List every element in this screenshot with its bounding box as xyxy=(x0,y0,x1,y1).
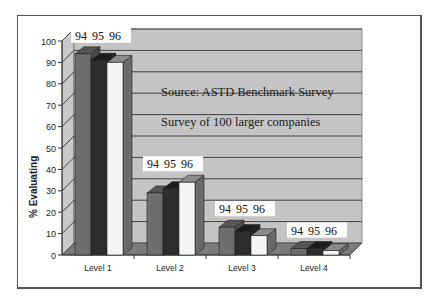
annotation-text: Survey of 100 larger companies xyxy=(161,115,321,129)
year-label: 94 xyxy=(75,29,87,43)
year-label: 95 xyxy=(236,202,248,216)
year-label: 96 xyxy=(253,202,265,216)
bar xyxy=(75,54,91,255)
bar xyxy=(291,249,307,255)
category-label: Level 4 xyxy=(300,263,328,273)
year-label: 95 xyxy=(164,157,176,171)
y-tick-label: 80 xyxy=(46,79,56,89)
bar xyxy=(219,227,235,255)
bar-chart: 0102030405060708090100949596Level 194959… xyxy=(0,0,435,304)
year-label: 95 xyxy=(92,29,104,43)
y-tick-label: 100 xyxy=(41,37,56,47)
category-label: Level 1 xyxy=(84,263,112,273)
y-tick-label: 50 xyxy=(46,144,56,154)
y-tick-label: 20 xyxy=(46,208,56,218)
category-label: Level 3 xyxy=(228,263,256,273)
bar xyxy=(179,182,195,255)
y-tick-label: 90 xyxy=(46,58,56,68)
year-label: 96 xyxy=(325,224,337,238)
category-label: Level 2 xyxy=(156,263,184,273)
bar xyxy=(163,189,179,255)
y-tick-label: 70 xyxy=(46,101,56,111)
y-tick-label: 40 xyxy=(46,165,56,175)
y-tick-label: 60 xyxy=(46,122,56,132)
year-label: 96 xyxy=(109,29,121,43)
bar xyxy=(251,236,267,255)
bar xyxy=(147,193,163,255)
year-label: 94 xyxy=(147,157,159,171)
year-label: 95 xyxy=(308,224,320,238)
bar xyxy=(323,251,339,255)
y-tick-label: 30 xyxy=(46,186,56,196)
bar xyxy=(91,60,107,255)
year-label: 96 xyxy=(181,157,193,171)
annotation-text: Source: ASTD Benchmark Survey xyxy=(161,85,334,99)
year-label: 94 xyxy=(219,202,231,216)
bar xyxy=(235,231,251,255)
bar xyxy=(107,62,123,255)
y-axis-label: % Evaluating xyxy=(28,156,39,218)
bar xyxy=(307,249,323,255)
year-label: 94 xyxy=(291,224,303,238)
y-tick-label: 0 xyxy=(51,251,56,261)
y-tick-label: 10 xyxy=(46,229,56,239)
